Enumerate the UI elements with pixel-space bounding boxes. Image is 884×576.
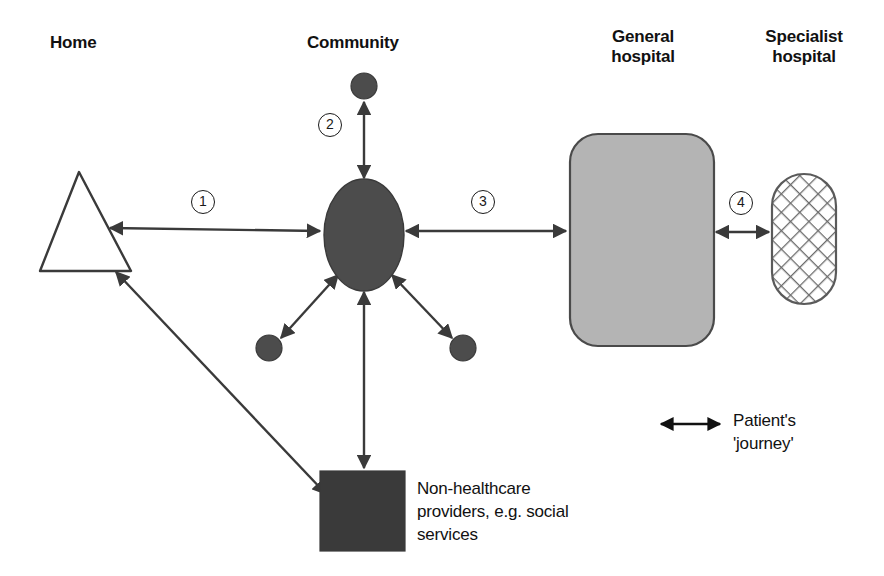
non-healthcare-square-shape[interactable] bbox=[320, 471, 405, 551]
arrow-home-community bbox=[110, 228, 320, 231]
non-healthcare-caption: Non-healthcare providers, e.g. social se… bbox=[417, 477, 647, 546]
patient-journey-diagram: Home Community General hospital Speciali… bbox=[0, 0, 884, 576]
home-triangle-shape[interactable] bbox=[40, 172, 131, 271]
arrow-community-satellite-right bbox=[392, 275, 452, 338]
community-satellite-left-shape[interactable] bbox=[256, 335, 282, 361]
community-ellipse-shape[interactable] bbox=[324, 179, 404, 291]
legend-label: Patient's 'journey' bbox=[733, 409, 873, 455]
label-community: Community bbox=[307, 33, 399, 53]
step-badge-3[interactable]: 3 bbox=[471, 190, 495, 214]
label-general-hospital: General hospital bbox=[583, 27, 703, 67]
label-specialist-hospital: Specialist hospital bbox=[748, 27, 860, 67]
step-badge-4[interactable]: 4 bbox=[729, 191, 753, 215]
step-badge-2[interactable]: 2 bbox=[318, 113, 342, 137]
arrow-community-satellite-left bbox=[281, 275, 338, 338]
step-badge-1[interactable]: 1 bbox=[191, 190, 215, 214]
community-satellite-right-shape[interactable] bbox=[450, 335, 476, 361]
label-home: Home bbox=[50, 33, 96, 53]
specialist-hospital-shape[interactable] bbox=[772, 174, 836, 304]
general-hospital-shape[interactable] bbox=[570, 134, 714, 346]
arrow-home-non-healthcare bbox=[116, 272, 326, 494]
community-satellite-top-shape[interactable] bbox=[351, 73, 377, 99]
